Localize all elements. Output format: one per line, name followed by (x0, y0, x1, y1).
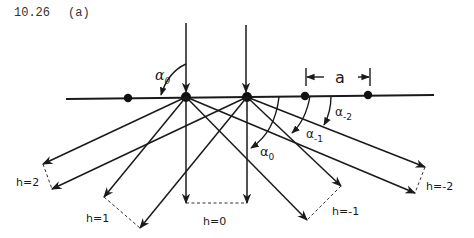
atom-1 (124, 94, 132, 102)
diffraction-diagram: 10.26 (a) α0 α0 α-1 α-2 (0, 0, 474, 238)
part-label: (a) (68, 6, 90, 20)
wavefront-hm2 (415, 167, 425, 193)
label-spacing-a: a (335, 68, 345, 87)
angle-arc-alpha-m2 (324, 96, 331, 125)
label-alpha-m2: α-2 (335, 105, 352, 122)
wavefront-h2 (43, 164, 52, 189)
label-alpha-m1: α-1 (306, 127, 323, 144)
rays-left-atom (43, 97, 415, 220)
wavefront-h1 (104, 197, 140, 228)
ray-left-h2 (43, 97, 186, 164)
label-h1: h=1 (86, 212, 109, 225)
ray-left-hm2 (186, 97, 415, 193)
label-h0: h=0 (203, 215, 226, 228)
label-alpha-top: α0 (155, 67, 170, 86)
atom-5 (364, 91, 372, 99)
label-alpha-0: α0 (260, 144, 275, 162)
ray-right-h2 (52, 97, 247, 189)
label-h2: h=2 (16, 176, 39, 189)
label-hm1: h=-1 (332, 205, 359, 218)
problem-number: 10.26 (14, 6, 50, 20)
ray-right-h1 (140, 97, 247, 228)
label-hm2: h=-2 (426, 180, 453, 193)
ray-left-h1 (104, 97, 186, 197)
atom-4 (301, 92, 309, 100)
rays-right-atom (52, 97, 425, 228)
